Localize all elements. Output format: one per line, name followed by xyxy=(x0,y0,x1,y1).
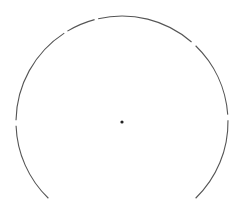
circular-arc-figure xyxy=(0,0,248,211)
arc-segment-1 xyxy=(16,126,48,199)
arc-segment-2 xyxy=(16,33,64,120)
arc-segment-3 xyxy=(67,20,94,32)
arc-segment-5 xyxy=(196,46,228,115)
arc-segments xyxy=(16,16,228,198)
center-dot xyxy=(120,120,123,123)
arc-segment-6 xyxy=(196,120,228,198)
arc-segment-4 xyxy=(98,16,191,42)
